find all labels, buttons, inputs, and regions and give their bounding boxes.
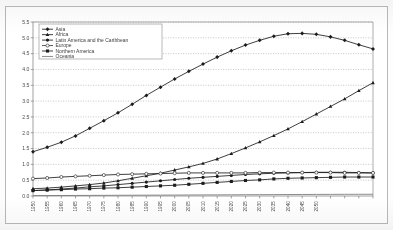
data-point xyxy=(74,175,77,178)
legend-label: Oceania xyxy=(56,53,75,59)
data-point xyxy=(201,176,204,179)
data-point xyxy=(173,172,176,175)
ytick-label: 0.0 xyxy=(22,193,29,199)
ytick-label: 1.5 xyxy=(22,145,29,151)
ytick-label: 2.0 xyxy=(22,130,29,136)
xtick-label: 2015 xyxy=(215,201,220,212)
data-point xyxy=(145,181,148,184)
data-point xyxy=(187,177,190,180)
data-point xyxy=(286,177,289,180)
data-point xyxy=(46,39,49,42)
data-point xyxy=(116,173,119,176)
data-point xyxy=(301,176,304,179)
data-point xyxy=(371,171,374,174)
data-point xyxy=(145,185,148,188)
data-point xyxy=(315,176,318,179)
xtick-label: 2030 xyxy=(257,201,262,212)
data-point xyxy=(329,171,332,174)
chart-figure: 0.00.51.01.52.02.53.03.54.04.55.05.51950… xyxy=(0,0,393,230)
data-point xyxy=(159,179,162,182)
data-point xyxy=(187,183,190,186)
data-point xyxy=(272,171,275,174)
data-point xyxy=(46,176,49,179)
data-point xyxy=(329,176,332,179)
data-point xyxy=(201,182,204,185)
xtick-label: 1990 xyxy=(144,201,149,212)
data-point xyxy=(286,171,289,174)
ytick-label: 2.5 xyxy=(22,114,29,120)
xtick-label: 2005 xyxy=(186,201,191,212)
data-point xyxy=(216,171,219,174)
data-point xyxy=(145,172,148,175)
data-point xyxy=(131,182,134,185)
xtick-label: 2035 xyxy=(271,201,276,212)
xtick-label: 2045 xyxy=(300,201,305,212)
xtick-label: 2010 xyxy=(201,201,206,212)
data-point xyxy=(258,178,261,181)
data-point xyxy=(131,173,134,176)
data-point xyxy=(343,171,346,174)
xtick-label: 2020 xyxy=(229,201,234,212)
data-point xyxy=(131,186,134,189)
ytick-label: 5.0 xyxy=(22,35,29,41)
ytick-label: 3.5 xyxy=(22,82,29,88)
data-point xyxy=(31,177,34,180)
data-point xyxy=(357,175,360,178)
ytick-label: 1.0 xyxy=(22,161,29,167)
data-point xyxy=(102,187,105,190)
xtick-label: 2000 xyxy=(172,201,177,212)
xtick-label: 1960 xyxy=(59,201,64,212)
ytick-label: 0.5 xyxy=(22,177,29,183)
data-point xyxy=(46,188,49,191)
data-point xyxy=(357,171,360,174)
data-point xyxy=(371,175,374,178)
data-point xyxy=(173,178,176,181)
xtick-label: 1980 xyxy=(116,201,121,212)
data-point xyxy=(201,171,204,174)
ytick-label: 4.0 xyxy=(22,66,29,72)
data-point xyxy=(60,188,63,191)
data-point xyxy=(159,172,162,175)
data-point xyxy=(343,175,346,178)
legend: AsiaAfricaLatin America and the Caribbea… xyxy=(39,24,162,59)
xtick-label: 1965 xyxy=(73,201,78,212)
data-point xyxy=(173,184,176,187)
data-point xyxy=(216,175,219,178)
data-point xyxy=(88,174,91,177)
data-point xyxy=(315,171,318,174)
xtick-label: 2050 xyxy=(314,201,319,212)
data-point xyxy=(244,171,247,174)
data-point xyxy=(74,187,77,190)
xtick-label: 2025 xyxy=(243,201,248,212)
data-point xyxy=(230,171,233,174)
xtick-label: 1995 xyxy=(158,201,163,212)
ytick-label: 4.5 xyxy=(22,50,29,56)
data-point xyxy=(159,184,162,187)
data-point xyxy=(244,179,247,182)
xtick-label: 1955 xyxy=(45,201,50,212)
data-point xyxy=(216,181,219,184)
ytick-label: 5.5 xyxy=(22,19,29,25)
xtick-label: 1985 xyxy=(130,201,135,212)
ytick-label: 3.0 xyxy=(22,98,29,104)
data-point xyxy=(46,44,49,47)
data-point xyxy=(88,187,91,190)
data-point xyxy=(46,49,49,52)
data-point xyxy=(31,189,34,192)
data-point xyxy=(102,174,105,177)
data-point xyxy=(187,171,190,174)
xtick-label: 2040 xyxy=(286,201,291,212)
data-point xyxy=(272,177,275,180)
xtick-label: 1970 xyxy=(87,201,92,212)
xtick-label: 1975 xyxy=(101,201,106,212)
data-point xyxy=(301,171,304,174)
line-chart: 0.00.51.01.52.02.53.03.54.04.55.05.51950… xyxy=(0,0,393,230)
data-point xyxy=(258,171,261,174)
data-point xyxy=(116,183,119,186)
data-point xyxy=(60,175,63,178)
data-point xyxy=(230,180,233,183)
xtick-label: 1950 xyxy=(31,201,36,212)
data-point xyxy=(116,186,119,189)
